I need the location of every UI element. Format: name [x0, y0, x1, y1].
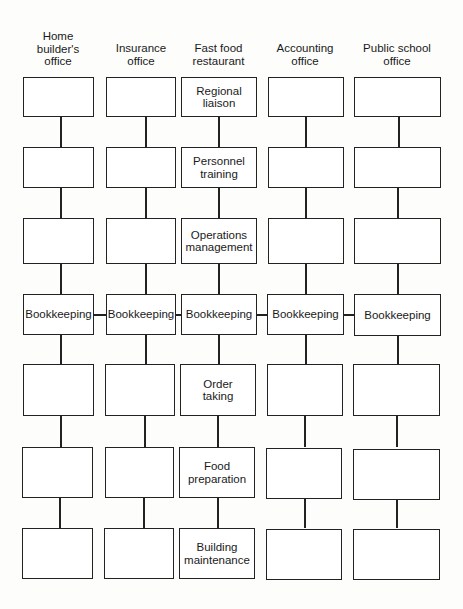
connector-line	[396, 497, 398, 528]
bookkeeping-link-line	[93, 314, 106, 316]
bookkeeping-box: Bookkeeping	[23, 294, 94, 335]
function-box	[104, 528, 174, 579]
connector-line	[143, 497, 145, 528]
connector-line	[144, 415, 146, 447]
header-public-school-office: Public school office	[347, 42, 447, 67]
function-box	[22, 447, 93, 498]
connector-line	[60, 187, 62, 218]
function-box	[268, 218, 344, 264]
food-preparation-box: Food preparation	[179, 447, 255, 498]
function-box	[23, 364, 94, 416]
connector-line	[145, 187, 147, 218]
function-box	[266, 529, 342, 580]
header-home-builders-office: Home builder's office	[18, 30, 98, 68]
connector-line	[396, 415, 398, 447]
connector-line	[218, 334, 220, 364]
connector-line	[218, 187, 220, 218]
connector-line	[145, 116, 147, 147]
function-box	[23, 218, 94, 264]
function-box	[353, 449, 440, 500]
function-box	[106, 218, 176, 264]
connector-line	[60, 334, 62, 364]
org-function-diagram: Home builder's office Insurance office F…	[0, 0, 463, 609]
function-box	[354, 147, 441, 188]
connector-line	[60, 263, 62, 294]
bookkeeping-box: Bookkeeping	[106, 294, 176, 335]
function-box	[266, 448, 342, 499]
bookkeeping-box: Bookkeeping	[354, 294, 441, 336]
connector-line	[145, 263, 147, 294]
function-box	[105, 364, 175, 416]
connector-line	[217, 415, 219, 447]
header-insurance-office: Insurance office	[101, 42, 181, 67]
function-box	[268, 77, 344, 117]
connector-line	[305, 187, 307, 218]
header-accounting-office: Accounting office	[262, 42, 348, 67]
bookkeeping-link-line	[256, 314, 267, 316]
connector-line	[218, 263, 220, 294]
connector-line	[398, 116, 400, 147]
connector-line	[397, 334, 399, 364]
connector-line	[60, 116, 62, 147]
function-box	[105, 447, 174, 498]
function-box	[106, 77, 176, 117]
connector-line	[145, 334, 147, 364]
function-box	[22, 528, 93, 579]
personnel-training-box: Personnel training	[181, 147, 257, 188]
function-box	[353, 364, 440, 416]
function-box	[267, 364, 343, 416]
connector-line	[305, 334, 307, 364]
bookkeeping-link-line	[343, 314, 354, 316]
bookkeeping-box: Bookkeeping	[267, 294, 344, 335]
connector-line	[304, 497, 306, 528]
bookkeeping-box: Bookkeeping	[181, 294, 257, 335]
connector-line	[305, 116, 307, 147]
building-maintenance-box: Building maintenance	[179, 528, 255, 579]
function-box	[354, 218, 441, 264]
function-box	[23, 77, 94, 117]
connector-line	[304, 415, 306, 447]
regional-liaison-box: Regional liaison	[181, 77, 257, 117]
order-taking-box: Order taking	[180, 364, 256, 416]
connector-line	[217, 497, 219, 528]
function-box	[268, 147, 344, 188]
function-box	[353, 529, 440, 580]
function-box	[354, 77, 441, 117]
operations-management-box: Operations management	[181, 218, 257, 264]
header-fast-food-restaurant: Fast food restaurant	[176, 42, 261, 67]
connector-line	[305, 263, 307, 294]
connector-line	[60, 415, 62, 447]
connector-line	[397, 263, 399, 294]
connector-line	[59, 497, 61, 528]
connector-line	[397, 187, 399, 218]
function-box	[106, 147, 176, 188]
connector-line	[218, 116, 220, 147]
function-box	[23, 147, 94, 188]
